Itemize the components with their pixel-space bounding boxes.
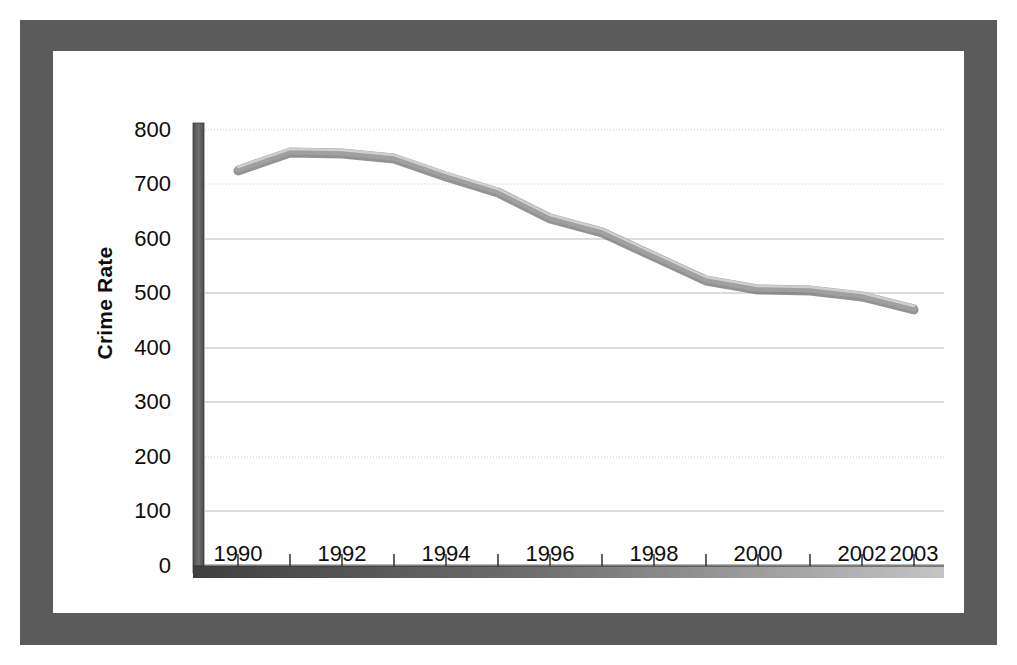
- line-chart: Crime Rate 800 700 600 500 400 300 200 1…: [53, 51, 964, 613]
- x-tick-label: 1996: [526, 543, 575, 565]
- x-tick-label: 1998: [630, 543, 679, 565]
- x-tick-label: 2003: [890, 543, 939, 565]
- x-tick-label: 2000: [734, 543, 783, 565]
- x-tick-label: 1990: [214, 543, 263, 565]
- x-tick-label: 1992: [318, 543, 367, 565]
- chart-plot-card: Crime Rate 800 700 600 500 400 300 200 1…: [53, 51, 964, 613]
- x-tick-label: 2002: [838, 543, 887, 565]
- chart-frame-border: Crime Rate 800 700 600 500 400 300 200 1…: [20, 20, 997, 645]
- x-axis-tick-labels: 1990 1992 1994 1996 1998 2000 2002 2003: [53, 51, 964, 613]
- x-tick-label: 1994: [422, 543, 471, 565]
- figure-container: Crime Rate 800 700 600 500 400 300 200 1…: [0, 0, 1017, 665]
